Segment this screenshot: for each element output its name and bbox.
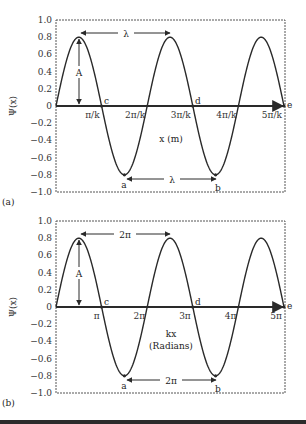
y-tick-label: 0.4 — [38, 268, 53, 278]
y-tick-label: −0.2 — [30, 118, 52, 128]
y-tick-label: −0.8 — [30, 371, 52, 381]
y-tick-label: 1.0 — [38, 216, 53, 226]
amplitude-label: A — [75, 269, 83, 279]
wave-figure: 1.00.80.60.40.20−0.2−0.4−0.6−0.8−1.0 Ψ(x… — [0, 0, 306, 424]
x-axis-ticks: π2π3π4π5π — [94, 311, 282, 321]
bottom-rule — [0, 420, 306, 424]
y-tick-label: −0.4 — [30, 135, 52, 145]
x-tick-label: 3π — [179, 311, 191, 321]
point-b-label: b — [215, 384, 221, 394]
x-axis-label: kx — [166, 329, 177, 339]
x-axis-ticks: π/k2π/k3π/k4π/k5π/k — [85, 110, 282, 120]
y-axis-ticks: 1.00.80.60.40.20−0.2−0.4−0.6−0.8−1.0 — [30, 15, 52, 197]
panel-a-label: (a) — [2, 197, 14, 207]
y-axis-label: Ψ(x) — [8, 96, 18, 116]
y-axis-label: Ψ(x) — [8, 297, 18, 317]
y-tick-label: 0.6 — [38, 49, 53, 59]
point-c-label: c — [104, 96, 109, 106]
y-tick-label: 0.8 — [38, 32, 53, 42]
x-tick-label: 2π/k — [125, 110, 146, 120]
panel-b-label: (b) — [2, 398, 15, 408]
panel-a-chart: 1.00.80.60.40.20−0.2−0.4−0.6−0.8−1.0 Ψ(x… — [2, 15, 292, 207]
y-tick-label: 0.8 — [38, 233, 53, 243]
x-tick-label: π — [94, 311, 100, 321]
x-tick-label: π/k — [85, 110, 100, 120]
x-tick-label: 4π/k — [216, 110, 237, 120]
y-tick-label: 0.2 — [38, 84, 52, 94]
x-tick-label: 3π/k — [171, 110, 192, 120]
y-tick-label: −0.8 — [30, 170, 52, 180]
y-tick-label: 0.2 — [38, 285, 52, 295]
panel-b-chart: 1.00.80.60.40.20−0.2−0.4−0.6−0.8−1.0 Ψ(x… — [2, 216, 292, 408]
y-tick-label: −1.0 — [30, 187, 52, 197]
wavelength-label-top: λ — [123, 29, 129, 39]
x-tick-label: 2π — [134, 311, 146, 321]
point-d-label: d — [195, 297, 201, 307]
y-tick-label: −0.4 — [30, 336, 52, 346]
y-axis-ticks: 1.00.80.60.40.20−0.2−0.4−0.6−0.8−1.0 — [30, 216, 52, 398]
point-c-label: c — [104, 297, 109, 307]
point-b-label: b — [215, 183, 221, 193]
y-tick-label: −0.6 — [30, 153, 52, 163]
y-tick-label: 1.0 — [38, 15, 53, 25]
y-tick-label: −1.0 — [30, 388, 52, 398]
x-axis-label-unit: (Radians) — [149, 341, 193, 351]
x-tick-label: 5π/k — [262, 110, 283, 120]
wavelength-label-bottom: λ — [169, 175, 175, 185]
point-e-label: e — [287, 301, 292, 311]
x-tick-label: 4π — [225, 311, 237, 321]
x-tick-label: 5π — [270, 311, 282, 321]
amplitude-label: A — [75, 68, 83, 78]
point-a-label: a — [121, 381, 127, 391]
point-e-label: e — [287, 100, 292, 110]
y-tick-label: 0 — [46, 302, 52, 312]
y-tick-label: 0.4 — [38, 67, 53, 77]
y-tick-label: 0 — [46, 101, 52, 111]
point-a-label: a — [121, 180, 127, 190]
y-tick-label: −0.2 — [30, 319, 52, 329]
wavelength-label-bottom: 2π — [165, 376, 177, 386]
wavelength-label-top: 2π — [119, 230, 131, 240]
y-tick-label: 0.6 — [38, 250, 53, 260]
y-tick-label: −0.6 — [30, 354, 52, 364]
point-d-label: d — [195, 96, 201, 106]
x-axis-label: x (m) — [159, 134, 183, 144]
